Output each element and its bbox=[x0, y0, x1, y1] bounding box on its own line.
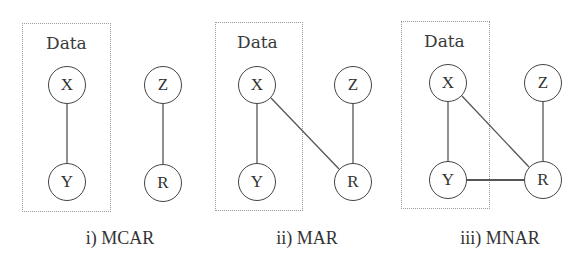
node-mar-r: R bbox=[334, 163, 372, 201]
missingness-diagram: Data X Y Z R i) MCAR Data X Y Z R ii) MA… bbox=[0, 0, 584, 265]
node-mcar-x: X bbox=[48, 66, 86, 104]
node-mcar-r: R bbox=[144, 164, 182, 202]
node-mar-z: Z bbox=[334, 66, 372, 104]
node-mnar-z: Z bbox=[524, 64, 562, 102]
node-mar-x: X bbox=[238, 66, 276, 104]
node-mnar-y: Y bbox=[429, 161, 467, 199]
node-mar-y: Y bbox=[238, 163, 276, 201]
node-mnar-r: R bbox=[524, 161, 562, 199]
edge-mar-x-r bbox=[271, 98, 339, 169]
edge-mnar-x-r bbox=[462, 96, 529, 167]
node-mcar-y: Y bbox=[48, 163, 86, 201]
node-mnar-x: X bbox=[429, 64, 467, 102]
node-mcar-z: Z bbox=[144, 66, 182, 104]
edges-layer bbox=[0, 0, 584, 265]
